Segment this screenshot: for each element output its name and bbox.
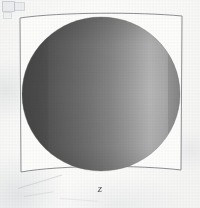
sphere-figure [0,0,200,208]
figure-page: z [0,0,200,208]
figure-caption: z [0,182,200,194]
